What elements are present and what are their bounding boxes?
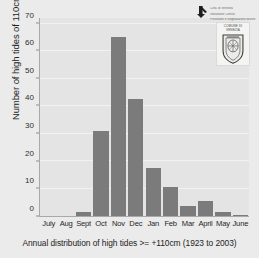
x-tick-label: Jan: [145, 219, 162, 228]
bar: [163, 187, 178, 216]
bar: [93, 131, 108, 216]
bar-cell: [40, 18, 57, 216]
y-tick-label: 10: [25, 176, 34, 185]
y-tick-label: 0: [30, 204, 34, 213]
logo-text-block: Citta' di Venezia Istituzione Centro Pre…: [209, 6, 256, 22]
logo-text-line: Citta' di Venezia: [210, 7, 256, 11]
x-tick-label: Dec: [127, 219, 144, 228]
bar-cell: [179, 18, 196, 216]
bar-cell: [127, 18, 144, 216]
y-axis-ticks: 010203040506070: [0, 18, 39, 217]
bar: [146, 168, 161, 216]
logo-text-line: Istituzione Centro: [210, 13, 256, 17]
x-tick-label: Mar: [179, 219, 196, 228]
y-tick-label: 70: [25, 10, 34, 19]
venice-tide-centre-logo: Citta' di Venezia Istituzione Centro Pre…: [196, 6, 252, 66]
y-tick-label: 20: [25, 148, 34, 157]
x-tick-label: April: [197, 219, 214, 228]
x-tick-label: Aug: [57, 219, 74, 228]
crest-text-line: VENEZIA: [226, 29, 240, 33]
bar: [233, 215, 248, 216]
y-tick-label: 40: [25, 93, 34, 102]
bar-cell: [145, 18, 162, 216]
y-tick-label: 60: [25, 38, 34, 47]
x-tick-label: Nov: [110, 219, 127, 228]
bar: [198, 201, 213, 216]
x-axis-ticks: JulyAugSeptOctNovDecJanFebMarAprilMayJun…: [40, 219, 249, 228]
bar-cell: [162, 18, 179, 216]
x-tick-label: Feb: [162, 219, 179, 228]
x-tick-label: Oct: [92, 219, 109, 228]
chart-figure: Number of high tides of 110cms or above …: [0, 0, 259, 258]
crest-shield-icon: [220, 33, 246, 65]
y-tick-label: 50: [25, 65, 34, 74]
x-tick-label: June: [232, 219, 249, 228]
bar: [111, 37, 126, 216]
y-tick-label: 30: [25, 121, 34, 130]
bar-cell: [92, 18, 109, 216]
bar: [180, 206, 195, 216]
bar: [215, 212, 230, 216]
bar-cell: [57, 18, 74, 216]
bar: [128, 99, 143, 216]
bar-cell: [75, 18, 92, 216]
bar: [76, 212, 91, 216]
x-tick-label: May: [214, 219, 231, 228]
chart-caption: Annual distribution of high tides >= +11…: [0, 238, 259, 248]
x-tick-label: Sept: [75, 219, 92, 228]
bar-cell: [110, 18, 127, 216]
venice-coat-of-arms: COMUNE DI VENEZIA: [216, 22, 250, 66]
logo-header: Citta' di Venezia Istituzione Centro Pre…: [196, 6, 252, 22]
x-tick-label: July: [40, 219, 57, 228]
logo-arrow-icon: [197, 6, 208, 19]
